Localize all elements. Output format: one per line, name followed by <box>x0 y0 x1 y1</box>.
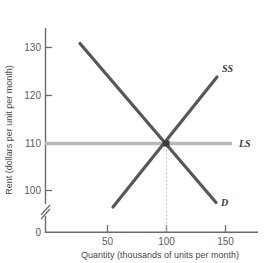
y-tick-label-110: 110 <box>25 138 41 149</box>
rent-supply-demand-chart: 130 120 110 100 0 50 100 150 Quantity (t… <box>0 0 271 263</box>
series-line-d <box>80 44 216 203</box>
y-axis-origin-label: 0 <box>35 227 41 238</box>
y-axis-title: Rent (dollars per unit per month) <box>4 65 14 195</box>
series-label-ss: SS <box>222 63 234 74</box>
x-tick-label-50: 50 <box>102 236 114 247</box>
y-tick-label-100: 100 <box>24 185 41 196</box>
y-tick-label-130: 130 <box>24 42 41 53</box>
series-label-ls: LS <box>238 138 251 149</box>
x-axis-title: Quantity (thousands of units per month) <box>81 250 239 260</box>
x-tick-label-150: 150 <box>217 236 234 247</box>
equilibrium-marker <box>163 141 170 147</box>
series-label-d: D <box>220 197 228 208</box>
y-tick-label-120: 120 <box>24 90 41 101</box>
chart-canvas: 130 120 110 100 0 50 100 150 Quantity (t… <box>0 0 271 263</box>
x-tick-label-100: 100 <box>158 236 175 247</box>
